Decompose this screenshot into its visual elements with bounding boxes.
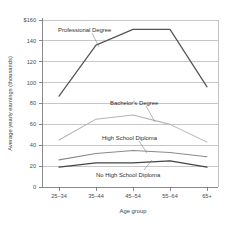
x-tick-label-45-54: 45–54 [125,193,141,199]
x-tick-label-35-44: 35–44 [88,193,104,199]
y-axis-title: Average yearly earnings (thousands) [7,56,13,151]
series-label-no-high-school-diploma: No High School Diploma [96,172,161,178]
series-label-high-school-diploma: High School Diploma [102,135,158,141]
x-tick-label-25-34: 25–34 [51,193,67,199]
x-tick-label-65plus: 65+ [202,193,212,199]
y-tick-label-20: 20 [30,163,36,169]
y-tick-label-160: $160 [24,17,36,23]
x-tick-label-55-64: 55–64 [162,193,178,199]
y-tick-label-60: 60 [30,121,36,127]
y-tick-label-0: 0 [33,184,36,190]
series-label-bachelors-degree: Bachelor's Degree [110,100,159,106]
y-tick-label-140: 140 [27,38,36,44]
y-tick-label-80: 80 [30,100,36,106]
y-tick-label-120: 120 [27,59,36,65]
line-chart: $160 140 120 100 80 60 40 20 0 Average y… [0,0,250,227]
series-label-professional-degree: Professional Degree [58,27,112,33]
y-tick-label-100: 100 [27,80,36,86]
chart-container: $160 140 120 100 80 60 40 20 0 Average y… [0,0,250,227]
x-axis-title: Age group [120,208,147,214]
y-tick-label-40: 40 [30,142,36,148]
